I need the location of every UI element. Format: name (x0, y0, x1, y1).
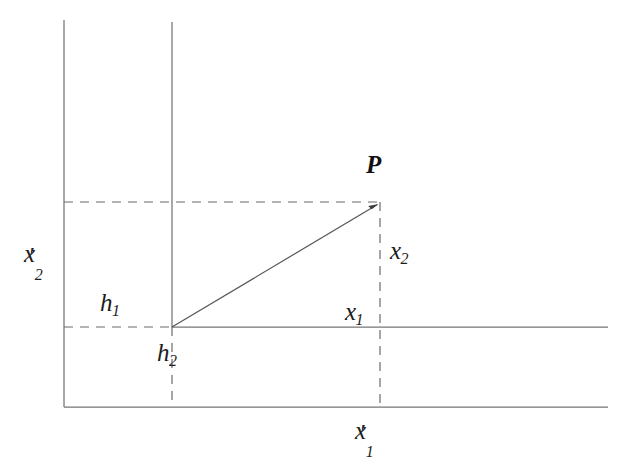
axis-label-x2-primed: x′2 (24, 241, 51, 266)
offset-label-h1: h1 (100, 290, 120, 319)
component-label-x2: x2 (390, 238, 408, 267)
figure-container: P x′2 x′1 h1 h2 x1 x2 (0, 0, 631, 465)
component-label-x1: x1 (345, 299, 363, 328)
point-label-p: P (366, 152, 381, 177)
offset-label-h2: h2 (157, 340, 177, 369)
diagram-canvas (0, 0, 631, 465)
axis-label-x1-primed: x′1 (355, 418, 382, 443)
